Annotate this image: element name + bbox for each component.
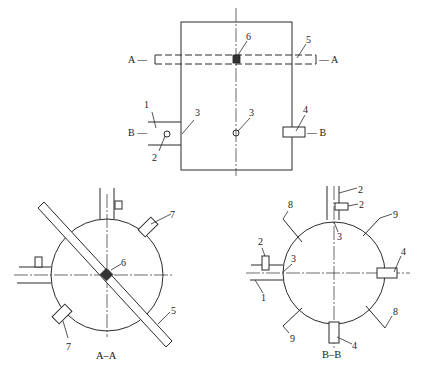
section-aa-view: 7 7 6 5 A–A (14, 188, 176, 361)
caption-aa: A–A (96, 350, 117, 361)
label-1: 1 (144, 99, 149, 110)
box-4 (283, 127, 305, 137)
vessel-outline (181, 22, 292, 170)
section-a-left-label: A — (128, 54, 148, 65)
elevation-view: A — — A B — — B 1 2 3 3 4 5 6 (128, 8, 339, 176)
block-6 (233, 55, 240, 63)
section-a-right-label: — A (318, 54, 339, 65)
section-b-left-label: B — (128, 127, 148, 138)
drawing-canvas: A — — A B — — B 1 2 3 3 4 5 6 (0, 0, 426, 377)
label-6-aa: 6 (121, 257, 126, 268)
box-4-right-bb (377, 268, 397, 278)
label-2-pipe-bb: 2 (358, 184, 363, 195)
box-7-top (138, 217, 158, 237)
label-3-left-bb: 3 (291, 253, 296, 264)
tick-8-top (283, 219, 302, 242)
label-9-bottom-bb: 9 (290, 333, 295, 344)
box-2-left-bb (262, 256, 269, 270)
label-7-bottom-aa: 7 (66, 341, 71, 352)
box-7-bottom (52, 304, 72, 324)
label-3-left: 3 (195, 107, 200, 118)
label-3-center: 3 (249, 107, 254, 118)
label-4: 4 (303, 104, 308, 115)
small-box-left-aa (35, 257, 42, 267)
label-9-top-bb: 9 (393, 209, 398, 220)
label-8-top-bb: 8 (288, 199, 293, 210)
label-2-left-bb: 2 (258, 236, 263, 247)
tick-9-bottom (283, 308, 302, 326)
label-8-bottom-bb: 8 (393, 306, 398, 317)
tick-8-bottom (366, 306, 385, 328)
tick-9-top (363, 218, 380, 236)
small-box-top-bb (335, 203, 348, 210)
label-5-aa: 5 (171, 305, 176, 316)
label-5: 5 (306, 34, 311, 45)
caption-bb: B–B (322, 349, 341, 360)
label-4-bottom-bb: 4 (352, 340, 357, 351)
section-b-right-label: — B (306, 127, 327, 138)
section-bb-view: 8 9 9 8 2 2 3 2 3 1 4 4 B–B (246, 184, 410, 360)
label-7-top-aa: 7 (170, 209, 175, 220)
box-4-bottom-bb (329, 322, 339, 343)
label-2-box-bb: 2 (359, 199, 364, 210)
label-2: 2 (152, 152, 157, 163)
label-3-top-bb: 3 (337, 231, 342, 242)
small-box-top-aa (115, 201, 122, 209)
label-4-right-bb: 4 (401, 246, 406, 257)
label-6: 6 (246, 31, 251, 42)
label-1-bb: 1 (261, 292, 266, 303)
